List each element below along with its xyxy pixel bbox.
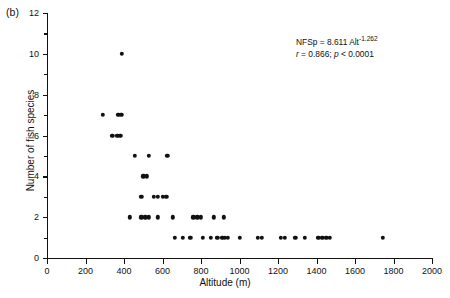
data-point xyxy=(101,113,105,117)
data-point xyxy=(155,215,159,219)
data-point xyxy=(139,195,143,199)
data-point xyxy=(173,235,177,239)
y-axis-title: Number of fish species xyxy=(25,51,36,231)
x-tick-label: 1000 xyxy=(229,266,249,276)
y-minor-tick xyxy=(44,156,47,157)
x-tick xyxy=(394,259,395,264)
equation-exponent: -1.262 xyxy=(359,35,378,42)
data-point xyxy=(215,235,219,239)
data-point xyxy=(293,235,297,239)
x-tick xyxy=(163,259,164,264)
data-point xyxy=(199,215,203,219)
x-tick-label: 200 xyxy=(78,266,93,276)
y-tick xyxy=(43,54,48,55)
y-tick xyxy=(43,258,48,259)
data-point xyxy=(259,235,263,239)
data-point xyxy=(164,195,168,199)
data-point xyxy=(211,215,215,219)
y-tick xyxy=(43,95,48,96)
data-point xyxy=(145,174,149,178)
y-tick-label: 0 xyxy=(17,253,39,263)
y-tick-label: 2 xyxy=(17,212,39,222)
data-point xyxy=(181,235,185,239)
data-point xyxy=(118,133,122,137)
x-tick xyxy=(201,259,202,264)
y-tick xyxy=(43,136,48,137)
data-point xyxy=(155,195,159,199)
data-point xyxy=(381,235,385,239)
x-tick xyxy=(355,259,356,264)
data-point xyxy=(188,235,192,239)
x-tick xyxy=(317,259,318,264)
data-point xyxy=(119,113,123,117)
regression-equation: NFSp = 8.611 Alt-1.262 xyxy=(296,36,378,48)
x-tick-label: 1400 xyxy=(306,266,326,276)
x-tick-label: 1800 xyxy=(383,266,403,276)
data-point xyxy=(147,215,151,219)
data-point xyxy=(132,154,136,158)
data-point xyxy=(328,235,332,239)
stats-r-value: = 0.866; xyxy=(299,49,334,59)
y-minor-tick xyxy=(44,197,47,198)
data-point xyxy=(110,133,114,137)
y-tick-label: 10 xyxy=(17,49,39,59)
x-tick-label: 0 xyxy=(44,266,49,276)
scatter-plot-figure: (b) NFSp = 8.611 Alt-1.262 r = 0.866; p … xyxy=(0,0,450,298)
data-point xyxy=(171,215,175,219)
x-tick xyxy=(124,259,125,264)
data-point xyxy=(128,215,132,219)
x-tick-label: 800 xyxy=(193,266,208,276)
x-tick xyxy=(278,259,279,264)
y-minor-tick xyxy=(44,33,47,34)
data-point xyxy=(120,52,124,56)
data-point xyxy=(208,235,212,239)
x-tick xyxy=(240,259,241,264)
y-minor-tick xyxy=(44,115,47,116)
data-point xyxy=(147,154,151,158)
data-point xyxy=(165,154,169,158)
y-tick-label: 8 xyxy=(17,90,39,100)
data-point xyxy=(222,215,226,219)
regression-stats: r = 0.866; p < 0.0001 xyxy=(296,48,378,60)
y-tick-label: 4 xyxy=(17,171,39,181)
y-tick xyxy=(43,176,48,177)
y-tick xyxy=(43,13,48,14)
y-tick-label: 6 xyxy=(17,131,39,141)
x-tick-label: 400 xyxy=(116,266,131,276)
x-tick-label: 600 xyxy=(155,266,170,276)
stats-p-value: < 0.0001 xyxy=(339,49,374,59)
data-point xyxy=(237,235,241,239)
equation-prefix: NFSp = 8.611 Alt xyxy=(296,37,359,47)
x-tick xyxy=(432,259,433,264)
data-point xyxy=(303,235,307,239)
y-minor-tick xyxy=(44,238,47,239)
x-tick-label: 2000 xyxy=(422,266,442,276)
y-tick xyxy=(43,217,48,218)
y-tick-label: 12 xyxy=(17,8,39,18)
data-point xyxy=(201,235,205,239)
data-point xyxy=(226,235,230,239)
x-tick-label: 1200 xyxy=(268,266,288,276)
x-tick-label: 1600 xyxy=(345,266,365,276)
x-axis-title: Altitude (m) xyxy=(0,277,450,288)
regression-annotation: NFSp = 8.611 Alt-1.262 r = 0.866; p < 0.… xyxy=(296,36,378,60)
y-minor-tick xyxy=(44,74,47,75)
data-point xyxy=(283,235,287,239)
x-tick xyxy=(47,259,48,264)
x-tick xyxy=(86,259,87,264)
